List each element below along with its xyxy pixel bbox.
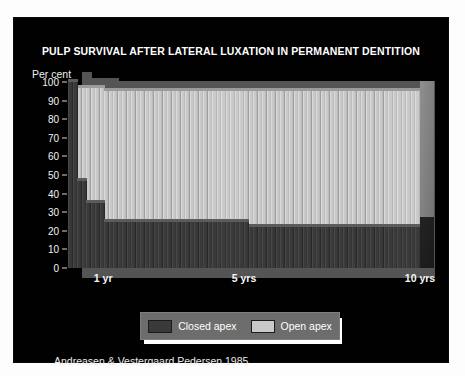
y-axis-tick-mark <box>62 82 67 83</box>
plot-area <box>68 82 420 268</box>
ribbon-cap <box>73 79 78 82</box>
y-axis-tick-label: 80 <box>19 114 59 125</box>
x-axis-tick-label: 10 yrs <box>405 272 435 284</box>
y-axis-tick-label: 70 <box>19 132 59 143</box>
y-axis-tick-label: 0 <box>19 263 59 274</box>
y-axis-tick-mark <box>62 100 67 101</box>
ribbon-cap <box>82 178 87 181</box>
series-ribbons <box>68 82 420 268</box>
y-axis-tick-label: 30 <box>19 207 59 218</box>
y-axis-tick-label: 100 <box>19 77 59 88</box>
legend-swatch-open-apex <box>251 320 275 333</box>
y-axis-tick-label: 20 <box>19 225 59 236</box>
legend-item-open-apex: Open apex <box>251 320 332 333</box>
y-axis-tick-mark <box>62 268 67 269</box>
y-axis-tick-label: 10 <box>19 244 59 255</box>
y-axis-tick-mark <box>62 119 67 120</box>
y-axis-tick-mark <box>62 175 67 176</box>
y-axis-tick-mark <box>62 212 67 213</box>
x-axis-tick-label: 1 yr <box>94 272 113 284</box>
chart-legend: Closed apex Open apex <box>140 312 340 340</box>
legend-label-open-apex: Open apex <box>281 320 332 332</box>
y-axis: 1009080706050403020100 <box>14 82 68 268</box>
y-axis-tick-mark <box>62 137 67 138</box>
y-axis-tick-label: 50 <box>19 170 59 181</box>
y-axis-tick-mark <box>62 193 67 194</box>
y-axis-tick-mark <box>62 156 67 157</box>
ribbon-end-wall <box>420 217 434 268</box>
y-axis-tick-label: 90 <box>19 95 59 106</box>
slide-canvas: PULP SURVIVAL AFTER LATERAL LUXATION IN … <box>0 0 465 376</box>
source-citation: Andreasen & Vestergaard Pedersen 1985 <box>54 355 248 367</box>
y-axis-tick-mark <box>62 249 67 250</box>
y-axis-tick-label: 60 <box>19 151 59 162</box>
y-axis-tick-label: 40 <box>19 188 59 199</box>
x-axis-tick-label: 5 yrs <box>232 272 257 284</box>
legend-label-closed-apex: Closed apex <box>178 320 236 332</box>
legend-item-closed-apex: Closed apex <box>148 320 236 333</box>
chart-title: PULP SURVIVAL AFTER LATERAL LUXATION IN … <box>14 45 448 57</box>
ribbon-cap <box>100 85 105 88</box>
chart-board: PULP SURVIVAL AFTER LATERAL LUXATION IN … <box>14 18 448 362</box>
ribbon-cap <box>100 200 105 203</box>
y-axis-tick-mark <box>62 230 67 231</box>
ribbon-cap <box>244 219 249 222</box>
legend-swatch-closed-apex <box>148 320 172 333</box>
